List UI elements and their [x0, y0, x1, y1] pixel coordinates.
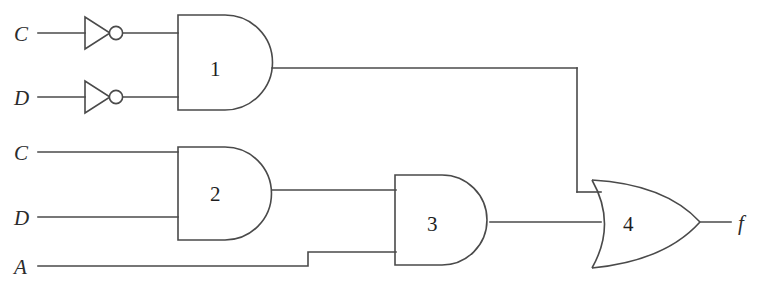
- input-label-c-top: C: [14, 22, 29, 46]
- gate-number-1: 1: [210, 57, 221, 81]
- input-label-d-bottom: D: [13, 206, 29, 230]
- gate-number-2: 2: [210, 182, 221, 206]
- inverter-bubble-icon-c: [109, 26, 122, 39]
- gate-number-3: 3: [427, 212, 438, 236]
- input-label-a: A: [12, 255, 27, 279]
- not-gate-icon-c: [85, 17, 178, 49]
- input-label-d-top: D: [13, 86, 29, 110]
- input-label-c-bottom: C: [14, 141, 29, 165]
- or-gate-4: [592, 180, 700, 268]
- input-wire-a: [38, 252, 396, 266]
- logic-circuit-diagram: C D C D A 1 2 3 4 f: [0, 0, 763, 294]
- circuit-canvas: C D C D A 1 2 3 4 f: [0, 0, 763, 294]
- output-label-f: f: [738, 211, 747, 235]
- gate-number-4: 4: [623, 212, 634, 236]
- not-gate-icon-d: [85, 81, 178, 113]
- inverter-bubble-icon-d: [109, 90, 122, 103]
- and-gate-1: [178, 15, 601, 192]
- and-gate-3: [395, 175, 601, 265]
